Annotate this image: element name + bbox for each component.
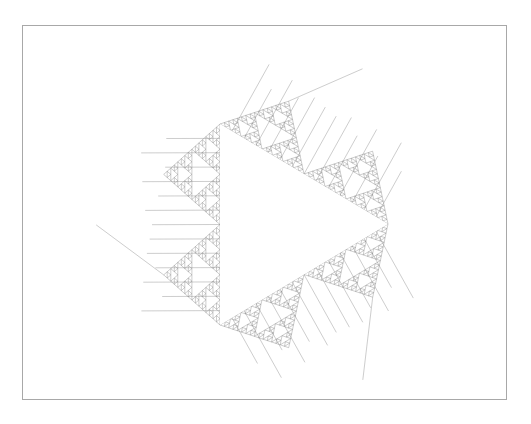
fractal-canvas <box>0 0 531 424</box>
